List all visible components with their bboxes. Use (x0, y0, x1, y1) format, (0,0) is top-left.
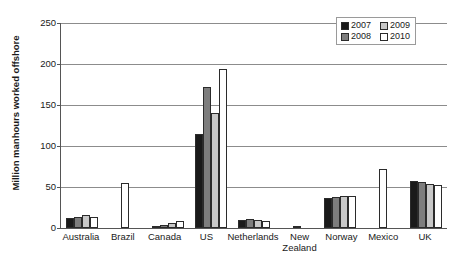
bar (219, 69, 227, 228)
y-axis-tick-labels: 050100150200250 (22, 0, 56, 275)
plot-area (60, 23, 447, 229)
x-axis-tick-label: Norway (320, 231, 362, 271)
bar (340, 196, 348, 228)
chart-figure: Million manhours worked offshore 0501001… (0, 0, 463, 275)
bar-group (404, 23, 447, 228)
bar (90, 217, 98, 228)
bar (82, 215, 90, 228)
x-axis-tick-label: Brazil (102, 231, 144, 271)
bar (160, 225, 168, 228)
legend-item[interactable]: 2009 (380, 21, 410, 30)
x-axis-tick-label: US (186, 231, 228, 271)
bar (293, 226, 301, 228)
legend-swatch-icon (341, 22, 349, 30)
bar (434, 185, 442, 228)
bar (203, 87, 211, 228)
y-axis-tick-label: 0 (22, 223, 56, 233)
y-axis-tick-mark (57, 228, 61, 229)
y-axis-tick-label: 100 (22, 141, 56, 151)
bar-group (361, 23, 404, 228)
legend-label: 2010 (390, 32, 410, 41)
legend-item[interactable]: 2008 (341, 32, 371, 41)
bar (379, 169, 387, 228)
bar-group (190, 23, 233, 228)
y-axis-tick-label: 50 (22, 182, 56, 192)
bar (238, 220, 246, 228)
legend-item[interactable]: 2010 (380, 32, 410, 41)
x-axis-tick-label: Australia (60, 231, 102, 271)
chart-legend: 2007200920082010 (336, 17, 416, 45)
bar (176, 221, 184, 228)
x-axis-tick-label: Mexico (362, 231, 404, 271)
bar-groups (61, 23, 447, 228)
legend-swatch-icon (341, 33, 349, 41)
bar (168, 223, 176, 228)
bar-group (104, 23, 147, 228)
x-axis-tick-labels: AustraliaBrazilCanadaUSNetherlandsNew Ze… (60, 231, 446, 271)
bar (262, 221, 270, 228)
y-axis-tick-label: 250 (22, 18, 56, 28)
bar (426, 184, 434, 228)
bar (410, 181, 418, 228)
bar-group (61, 23, 104, 228)
bar-group (318, 23, 361, 228)
bar-group (147, 23, 190, 228)
bar (246, 219, 254, 228)
bar (66, 218, 74, 228)
bar (348, 196, 356, 228)
y-axis-tick-label: 200 (22, 59, 56, 69)
x-axis-tick-label: Canada (144, 231, 186, 271)
bar-group (275, 23, 318, 228)
bar (74, 217, 82, 228)
y-axis-tick-label: 150 (22, 100, 56, 110)
legend-label: 2008 (351, 32, 371, 41)
legend-swatch-icon (380, 33, 388, 41)
bar (195, 134, 203, 228)
legend-swatch-icon (380, 22, 388, 30)
bar-group (233, 23, 276, 228)
bar (332, 197, 340, 228)
bar (211, 113, 219, 228)
x-axis-tick-label: Netherlands (227, 231, 278, 271)
x-axis-tick-label: New Zealand (279, 231, 321, 271)
bar (418, 182, 426, 228)
legend-label: 2009 (390, 21, 410, 30)
bar (121, 183, 129, 228)
bar (152, 226, 160, 228)
bar (324, 198, 332, 228)
legend-item[interactable]: 2007 (341, 21, 371, 30)
legend-label: 2007 (351, 21, 371, 30)
x-axis-tick-label: UK (404, 231, 446, 271)
bar (254, 220, 262, 228)
